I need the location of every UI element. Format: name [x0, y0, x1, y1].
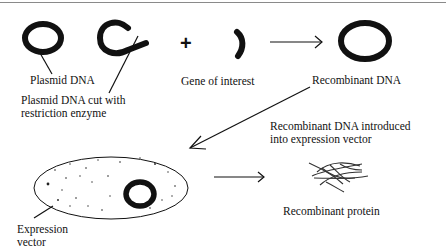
plasmid-dna-icon [25, 24, 61, 74]
label-cut-plasmid-line1: Plasmid DNA cut with [21, 94, 125, 107]
plus-operator: + [180, 32, 192, 55]
label-plasmid-dna: Plasmid DNA [30, 74, 95, 87]
label-cut-plasmid-line2: restriction enzyme [21, 107, 106, 120]
gene-of-interest-icon [237, 32, 242, 56]
label-expression-line2: vector [17, 236, 46, 249]
expression-vector-icon [34, 157, 188, 219]
label-gene-of-interest: Gene of interest [181, 75, 254, 88]
cut-plasmid-icon [100, 23, 146, 93]
label-expression-line1: Expression [17, 223, 68, 236]
label-introduced-line1: Recombinant DNA introduced [270, 120, 411, 133]
label-recombinant-protein: Recombinant protein [283, 205, 380, 218]
label-recombinant-dna: Recombinant DNA [312, 74, 401, 87]
recombinant-protein-icon [309, 163, 368, 192]
recombinant-dna-icon [341, 23, 389, 59]
arrow-right-icon [270, 36, 322, 48]
arrow-right-icon-2 [214, 172, 264, 182]
label-introduced-line2: into expression vector [270, 133, 372, 146]
